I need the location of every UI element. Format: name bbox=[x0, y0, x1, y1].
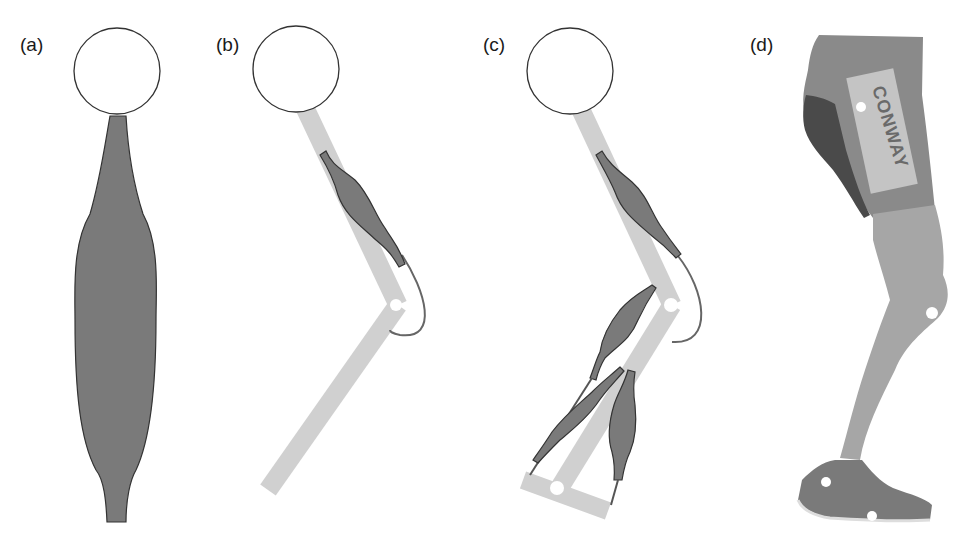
panel-d-photo: CONWAY bbox=[798, 35, 948, 521]
marker-knee bbox=[926, 307, 938, 319]
knee-joint-b bbox=[390, 299, 402, 311]
panel-b bbox=[253, 26, 425, 490]
knee-joint-c bbox=[664, 298, 678, 312]
shoe bbox=[798, 460, 932, 521]
hip-circle-c bbox=[527, 28, 613, 114]
panel-a bbox=[74, 28, 160, 522]
marker-ankle bbox=[821, 477, 831, 487]
diagram-canvas: CONWAY bbox=[0, 0, 980, 550]
thigh-skin bbox=[840, 205, 948, 460]
marker-hip bbox=[856, 102, 866, 112]
panel-c bbox=[523, 28, 701, 511]
hip-circle-a bbox=[74, 28, 160, 114]
marker-toe bbox=[867, 511, 877, 521]
tendon-c-achilles bbox=[611, 480, 618, 505]
shank-segment-b bbox=[268, 305, 398, 490]
ankle-joint-c bbox=[550, 481, 564, 495]
hip-circle-b bbox=[253, 26, 339, 112]
muscle-a bbox=[75, 116, 157, 522]
